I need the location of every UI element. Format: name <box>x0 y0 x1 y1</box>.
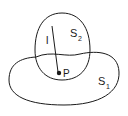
region-s2-label: S <box>70 27 77 39</box>
region-s1-label: S <box>98 75 105 87</box>
point-p-label: P <box>63 68 70 79</box>
diagram-canvas: l P S 2 S 1 <box>0 0 128 116</box>
region-s1-subscript: 1 <box>106 83 110 90</box>
line-l <box>52 26 58 72</box>
line-l-label: l <box>46 34 48 46</box>
region-s2-subscript: 2 <box>78 35 82 42</box>
point-p <box>57 71 61 75</box>
